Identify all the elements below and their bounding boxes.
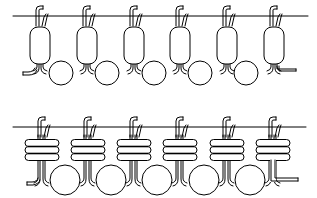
coil-loop xyxy=(256,147,290,154)
coil-loop xyxy=(117,154,151,161)
globular-domain xyxy=(189,165,219,195)
coil-loop xyxy=(210,140,244,147)
top-row-capsule-units xyxy=(13,6,308,85)
coil-loop xyxy=(71,147,105,154)
bottom-row-coil-units xyxy=(13,117,306,195)
globular-domain xyxy=(234,61,258,85)
globular-domain xyxy=(235,165,265,195)
capsule-domain xyxy=(77,27,97,64)
right-tail xyxy=(277,66,296,69)
coil-loop xyxy=(163,140,197,147)
coil-loop xyxy=(25,147,59,154)
coil-loop xyxy=(210,147,244,154)
coil-loop xyxy=(210,154,244,161)
globular-domain xyxy=(50,165,80,195)
globular-domain xyxy=(142,61,166,85)
coil-loop xyxy=(256,140,290,147)
coil-loop xyxy=(71,140,105,147)
capsule-domain xyxy=(217,27,237,64)
globular-domain xyxy=(188,61,212,85)
globular-domain xyxy=(95,61,119,85)
coil-loop xyxy=(25,154,59,161)
coil-loop xyxy=(256,154,290,161)
capsule-domain xyxy=(170,27,190,64)
coil-loop xyxy=(163,147,197,154)
coil-loop xyxy=(25,140,59,147)
globular-domain xyxy=(96,165,126,195)
globular-domain xyxy=(142,165,172,195)
coil-loop xyxy=(117,140,151,147)
capsule-domain xyxy=(264,27,284,64)
coil-loop xyxy=(163,154,197,161)
coil-loop xyxy=(117,147,151,154)
capsule-domain xyxy=(30,27,50,64)
globular-domain xyxy=(49,61,73,85)
membrane-protein-diagram xyxy=(0,0,317,198)
coil-loop xyxy=(71,154,105,161)
capsule-domain xyxy=(124,27,144,64)
